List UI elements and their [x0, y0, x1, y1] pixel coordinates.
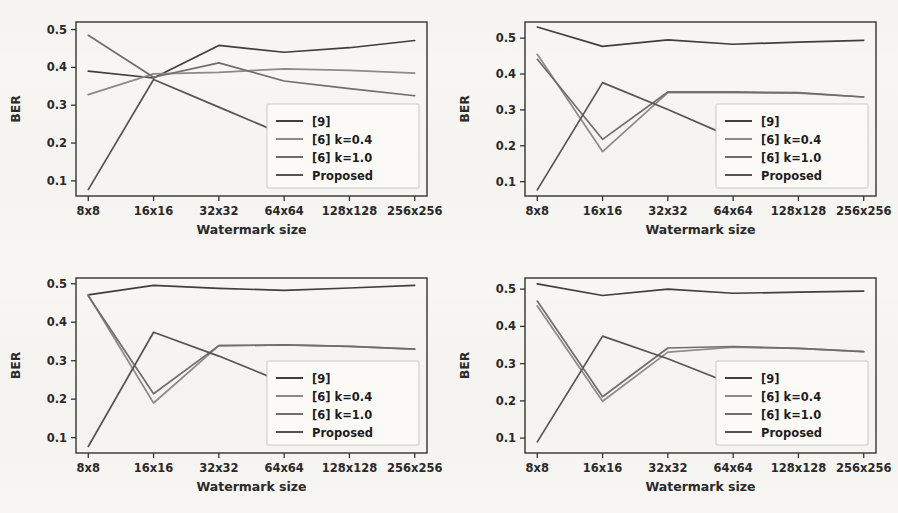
x-axis-tick-label: 256x256	[836, 204, 891, 218]
y-axis-tick-label: 0.3	[496, 357, 516, 371]
line-chart-svg: 0.10.20.30.40.58x816x1632x3264x64128x128…	[0, 0, 449, 256]
x-axis-tick-label: 128x128	[771, 461, 826, 475]
figure-panel-grid: 0.10.20.30.40.58x816x1632x3264x64128x128…	[0, 0, 898, 513]
data-series-line	[537, 27, 863, 46]
x-axis-tick-label: 8x8	[526, 461, 549, 475]
data-series-line	[537, 284, 863, 296]
x-axis-tick-label: 16x16	[134, 204, 173, 218]
legend-entry-label: [9]	[761, 372, 780, 386]
chart-panel-top-right: 0.10.20.30.40.58x816x1632x3264x64128x128…	[449, 0, 898, 256]
y-axis-title: BER	[8, 351, 23, 379]
y-axis-tick-label: 0.1	[496, 175, 516, 189]
x-axis-tick-label: 128x128	[322, 204, 377, 218]
legend-entry-label: Proposed	[761, 169, 822, 183]
y-axis-tick-label: 0.1	[47, 431, 67, 445]
y-axis-tick-label: 0.5	[47, 23, 67, 37]
x-axis-tick-label: 64x64	[264, 461, 303, 475]
legend-entry-label: [6] k=1.0	[312, 408, 372, 422]
chart-panel-top-left: 0.10.20.30.40.58x816x1632x3264x64128x128…	[0, 0, 449, 256]
x-axis-title: Watermark size	[645, 222, 755, 237]
y-axis-tick-label: 0.3	[496, 103, 516, 117]
x-axis-tick-label: 128x128	[771, 204, 826, 218]
x-axis-tick-label: 64x64	[264, 204, 303, 218]
data-series-line	[88, 35, 414, 96]
y-axis-tick-label: 0.2	[47, 392, 67, 406]
x-axis-tick-label: 64x64	[713, 204, 752, 218]
legend-entry-label: [6] k=1.0	[761, 408, 821, 422]
y-axis-tick-label: 0.1	[496, 431, 516, 445]
x-axis-tick-label: 32x32	[199, 461, 238, 475]
legend-entry-label: Proposed	[312, 169, 373, 183]
y-axis-tick-label: 0.4	[496, 319, 516, 333]
y-axis-tick-label: 0.2	[47, 136, 67, 150]
y-axis-tick-label: 0.4	[47, 60, 67, 74]
y-axis-tick-label: 0.2	[496, 139, 516, 153]
x-axis-tick-label: 32x32	[648, 461, 687, 475]
x-axis-tick-label: 8x8	[77, 461, 100, 475]
legend-entry-label: Proposed	[312, 426, 373, 440]
x-axis-tick-label: 128x128	[322, 461, 377, 475]
x-axis-tick-label: 256x256	[836, 461, 891, 475]
y-axis-title: BER	[457, 351, 472, 379]
x-axis-tick-label: 256x256	[387, 204, 442, 218]
legend-entry-label: [9]	[312, 115, 331, 129]
x-axis-tick-label: 256x256	[387, 461, 442, 475]
y-axis-title: BER	[457, 95, 472, 123]
legend-entry-label: [6] k=0.4	[312, 133, 372, 147]
x-axis-title: Watermark size	[196, 222, 306, 237]
y-axis-tick-label: 0.3	[47, 98, 67, 112]
x-axis-tick-label: 32x32	[199, 204, 238, 218]
y-axis-tick-label: 0.2	[496, 394, 516, 408]
line-chart-svg: 0.10.20.30.40.58x816x1632x3264x64128x128…	[0, 256, 449, 513]
chart-panel-bottom-right: 0.10.20.30.40.58x816x1632x3264x64128x128…	[449, 256, 898, 513]
line-chart-svg: 0.10.20.30.40.58x816x1632x3264x64128x128…	[449, 256, 898, 513]
x-axis-tick-label: 8x8	[77, 204, 100, 218]
y-axis-tick-label: 0.1	[47, 174, 67, 188]
legend-entry-label: [9]	[312, 372, 331, 386]
x-axis-tick-label: 32x32	[648, 204, 687, 218]
y-axis-tick-label: 0.5	[496, 282, 516, 296]
chart-panel-bottom-left: 0.10.20.30.40.58x816x1632x3264x64128x128…	[0, 256, 449, 513]
y-axis-tick-label: 0.4	[47, 315, 67, 329]
y-axis-tick-label: 0.4	[496, 67, 516, 81]
x-axis-tick-label: 16x16	[583, 204, 622, 218]
legend-entry-label: [6] k=0.4	[312, 390, 372, 404]
x-axis-tick-label: 64x64	[713, 461, 752, 475]
legend-entry-label: [6] k=1.0	[312, 151, 372, 165]
x-axis-tick-label: 8x8	[526, 204, 549, 218]
y-axis-title: BER	[8, 95, 23, 123]
data-series-line	[88, 285, 414, 295]
y-axis-tick-label: 0.5	[496, 31, 516, 45]
legend-entry-label: [9]	[761, 115, 780, 129]
legend-entry-label: [6] k=0.4	[761, 133, 821, 147]
x-axis-tick-label: 16x16	[134, 461, 173, 475]
legend-entry-label: [6] k=1.0	[761, 151, 821, 165]
y-axis-tick-label: 0.3	[47, 354, 67, 368]
x-axis-tick-label: 16x16	[583, 461, 622, 475]
legend-entry-label: [6] k=0.4	[761, 390, 821, 404]
x-axis-title: Watermark size	[645, 479, 755, 494]
y-axis-tick-label: 0.5	[47, 277, 67, 291]
legend-entry-label: Proposed	[761, 426, 822, 440]
x-axis-title: Watermark size	[196, 479, 306, 494]
line-chart-svg: 0.10.20.30.40.58x816x1632x3264x64128x128…	[449, 0, 898, 256]
